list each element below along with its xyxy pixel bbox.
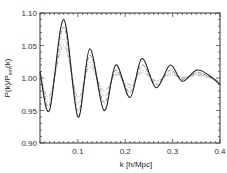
curve-solid (40, 19, 220, 117)
x-tick-labels: 0.10.20.30.4 (72, 147, 226, 156)
y-tick-label: 0.90 (21, 139, 37, 148)
y-tick-labels: 0.900.951.001.051.10 (21, 9, 37, 148)
y-axis-label: P(k)/Psm(k) (3, 58, 13, 97)
y-tick-label: 1.10 (21, 9, 37, 18)
x-tick-label: 0.1 (72, 147, 84, 156)
curve-dashed (40, 27, 220, 110)
y-axis-label-tail: (k) (3, 58, 12, 68)
y-tick-label: 0.95 (21, 107, 37, 116)
y-axis-label-main: P(k)/P (3, 75, 12, 97)
y-tick-label: 1.05 (21, 42, 37, 51)
y-tick-label: 1.00 (21, 74, 37, 83)
curve-dash-dot (40, 45, 220, 97)
curve-dotted (40, 39, 220, 103)
chart: 0.900.951.001.051.10 0.10.20.30.4 k [h/M… (0, 0, 227, 173)
data-curves (40, 19, 220, 117)
x-tick-label: 0.2 (120, 147, 132, 156)
x-tick-label: 0.3 (167, 147, 179, 156)
x-tick-label: 0.4 (214, 147, 226, 156)
x-axis-label: k [h/Mpc] (120, 160, 152, 169)
